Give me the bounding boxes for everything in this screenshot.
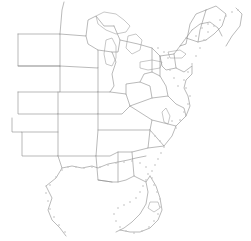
coastal-marker-dot [187, 103, 188, 104]
coastal-marker-dot [160, 206, 161, 207]
coastal-marker-dot [199, 47, 200, 48]
coastal-marker-dot [45, 192, 46, 193]
coastal-marker-dot [131, 160, 132, 161]
coastal-marker-dot [125, 230, 126, 231]
coastal-marker-dot [195, 55, 196, 56]
coastal-marker-dot [133, 232, 134, 233]
coastal-marker-dot [183, 111, 184, 112]
map-background [0, 0, 251, 241]
coastal-marker-dot [156, 191, 157, 192]
coastal-marker-dot [149, 130, 150, 131]
coastal-marker-dot [157, 47, 158, 48]
coastal-marker-dot [195, 35, 196, 36]
coastal-marker-dot [61, 169, 62, 170]
coastal-marker-dot [160, 152, 161, 153]
coastal-marker-dot [119, 226, 120, 227]
coastal-marker-dot [159, 140, 160, 141]
coastal-marker-dot [83, 167, 84, 168]
coastal-marker-dot [67, 166, 68, 167]
coastal-marker-dot [175, 127, 176, 128]
coastal-marker-dot [157, 213, 158, 214]
coastal-marker-dot [203, 39, 204, 40]
coastal-marker-dot [99, 166, 100, 167]
coastal-marker-dot [145, 166, 146, 167]
coastal-marker-dot [47, 200, 48, 201]
coastal-marker-dot [75, 166, 76, 167]
coastal-marker-dot [169, 69, 170, 70]
coastal-marker-dot [171, 120, 172, 121]
coastal-marker-dot [179, 119, 180, 120]
coastal-marker-dot [177, 85, 178, 86]
coastal-marker-dot [123, 161, 124, 162]
coastal-marker-dot [237, 9, 238, 10]
coastal-marker-dot [151, 170, 152, 171]
coastal-marker-dot [154, 164, 155, 165]
coastal-marker-dot [187, 71, 188, 72]
coastal-marker-dot [141, 230, 142, 231]
coastal-marker-dot [201, 27, 202, 28]
coastal-marker-dot [163, 51, 164, 52]
coastal-marker-dot [115, 220, 116, 221]
coastal-marker-dot [55, 176, 56, 177]
coastal-marker-dot [154, 135, 155, 136]
coastal-marker-dot [145, 179, 146, 180]
coastal-marker-dot [183, 79, 184, 80]
coastal-marker-dot [113, 213, 114, 214]
coastal-marker-dot [159, 198, 160, 199]
coastal-marker-dot [135, 197, 136, 198]
coastal-marker-dot [207, 31, 208, 32]
coastal-marker-dot [107, 164, 108, 165]
coastal-marker-dot [139, 162, 140, 163]
coastal-marker-dot [49, 208, 50, 209]
coastal-marker-dot [231, 11, 232, 12]
coastal-marker-dot [157, 158, 158, 159]
coastal-marker-dot [148, 226, 149, 227]
coastal-marker-dot [213, 25, 214, 26]
coastal-marker-dot [147, 173, 148, 174]
coastal-marker-dot [115, 162, 116, 163]
coastal-marker-dot [58, 224, 59, 225]
coastal-marker-dot [225, 15, 226, 16]
coastal-marker-dot [191, 63, 192, 64]
coastal-marker-dot [153, 220, 154, 221]
coastal-marker-dot [129, 201, 130, 202]
coastal-marker-dot [123, 204, 124, 205]
coastal-marker-dot [207, 23, 208, 24]
coastal-marker-dot [117, 207, 118, 208]
coastal-marker-dot [139, 191, 140, 192]
coastal-marker-dot [53, 216, 54, 217]
map-figure [0, 0, 251, 241]
coastal-marker-dot [49, 184, 50, 185]
map-canvas [0, 0, 251, 241]
coastal-marker-dot [142, 185, 143, 186]
coastal-marker-dot [151, 177, 152, 178]
coastal-marker-dot [167, 57, 168, 58]
coastal-marker-dot [64, 231, 65, 232]
coastal-marker-dot [173, 77, 174, 78]
coastal-marker-dot [185, 87, 186, 88]
coastal-marker-dot [189, 95, 190, 96]
coastal-marker-dot [219, 19, 220, 20]
coastal-marker-dot [91, 166, 92, 167]
coastal-marker-dot [153, 184, 154, 185]
coastal-marker-dot [163, 146, 164, 147]
